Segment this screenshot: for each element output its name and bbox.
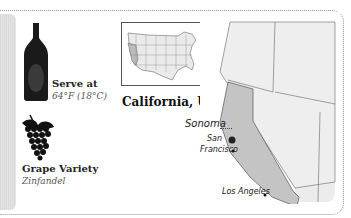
san-francisco-label-line2: Francisco: [200, 145, 238, 154]
los-angeles-label: Los Angeles: [222, 187, 270, 196]
grape-variety-value: Zinfandel: [22, 176, 65, 186]
serve-label: Serve at: [52, 78, 98, 89]
california-map: [200, 12, 340, 204]
san-francisco-label-line1: San: [207, 134, 222, 143]
us-map-icon: [121, 22, 203, 86]
wine-bottle-icon: [24, 23, 48, 101]
grapes-icon: [20, 113, 56, 161]
sonoma-leader-line: [220, 128, 232, 129]
left-decor-bar: [0, 14, 16, 210]
grape-variety-label: Grape Variety: [22, 163, 98, 174]
serve-temperature: 64°F (18°C): [52, 91, 107, 101]
